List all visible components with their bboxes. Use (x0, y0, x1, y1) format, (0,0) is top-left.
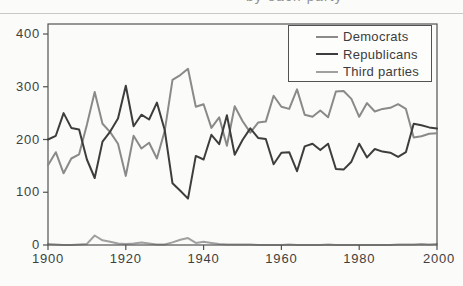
democrats-line (48, 69, 437, 176)
x-tick-label: 2000 (415, 251, 463, 267)
x-tick-label: 1980 (335, 251, 383, 267)
x-tick-label: 1900 (24, 251, 72, 267)
democrats-line-swatch-icon (316, 36, 338, 38)
legend-item-republicans: Republicans (289, 46, 431, 64)
x-tick-label: 1940 (180, 251, 228, 267)
legend: Democrats Republicans Third parties (288, 25, 432, 82)
y-tick-label: 400 (8, 26, 40, 42)
legend-label: Democrats (343, 29, 409, 44)
house-seats-chart: by each party 400 300 200 100 0 1900 192… (0, 0, 463, 286)
republicans-line-swatch-icon (316, 53, 338, 55)
legend-label: Third parties (343, 64, 419, 79)
x-tick-label: 1960 (257, 251, 305, 267)
legend-label: Republicans (343, 47, 418, 62)
x-tick-label: 1920 (102, 251, 150, 267)
legend-item-democrats: Democrats (289, 28, 431, 46)
y-tick-label: 200 (8, 132, 40, 148)
legend-item-third-parties: Third parties (289, 63, 431, 81)
third-parties-line-swatch-icon (316, 71, 338, 73)
republicans-line (48, 86, 437, 199)
y-tick-label: 300 (8, 79, 40, 95)
y-tick-label: 100 (8, 184, 40, 200)
third-parties-line (48, 236, 437, 246)
